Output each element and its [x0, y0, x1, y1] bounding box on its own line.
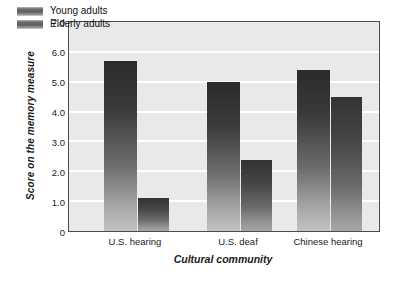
bar-elderly-us-deaf [241, 160, 272, 231]
legend-item-young-adults: Young adults [17, 5, 110, 17]
y-tick-label: 6.0 [25, 48, 65, 58]
bar-elderly-chinese-hearing [331, 97, 362, 231]
plot-area [68, 21, 380, 232]
bar-elderly-us-hearing [138, 198, 169, 231]
bar-young-us-deaf [207, 82, 240, 231]
legend-item-elderly-adults: Elderly adults [17, 18, 110, 30]
legend-label-elderly-adults: Elderly adults [50, 19, 110, 29]
y-tick-label: 5.0 [25, 78, 65, 88]
legend-swatch-icon [17, 20, 43, 29]
legend-label-young-adults: Young adults [50, 6, 107, 16]
y-tick-label: 1.0 [25, 198, 65, 208]
bar-young-chinese-hearing [297, 70, 330, 231]
y-tick-label: 3.0 [25, 138, 65, 148]
x-tick-label-chinese-hearing: Chinese hearing [261, 236, 395, 247]
y-tick-label: 4.0 [25, 108, 65, 118]
gridline [69, 51, 379, 53]
legend-swatch-icon [17, 7, 43, 16]
chart-legend: Young adults Elderly adults [13, 3, 115, 34]
x-axis-title: Cultural community [68, 253, 378, 265]
y-tick-label: 2.0 [25, 168, 65, 178]
bar-young-us-hearing [104, 61, 137, 231]
chart-figure: Score on the memory measure 0 1.0 2.0 3.… [0, 0, 399, 284]
y-tick-label: 0 [25, 228, 65, 238]
